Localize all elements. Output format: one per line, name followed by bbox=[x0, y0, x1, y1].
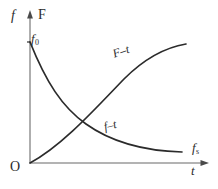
fs-subscript: s bbox=[196, 147, 199, 156]
asymptote-label-fs: fs bbox=[192, 141, 199, 154]
origin-label: O bbox=[10, 160, 20, 174]
curve-force-vs-time bbox=[30, 44, 186, 163]
y-tick-label-f0: f0 bbox=[31, 32, 39, 45]
f0-subscript: 0 bbox=[35, 38, 39, 47]
figure-canvas bbox=[0, 0, 218, 189]
x-axis-arrow-icon bbox=[201, 160, 210, 166]
y-axis-label-F: F bbox=[38, 8, 46, 22]
curve-label-friction-vs-time: f–t bbox=[102, 118, 117, 133]
y-axis-label-f: f bbox=[11, 9, 15, 23]
friction-force-vs-time-figure: f F f0 F–t f–t fs t O bbox=[0, 0, 218, 189]
y-axis-arrow-icon bbox=[27, 10, 33, 19]
x-axis-label-t: t bbox=[191, 164, 195, 177]
